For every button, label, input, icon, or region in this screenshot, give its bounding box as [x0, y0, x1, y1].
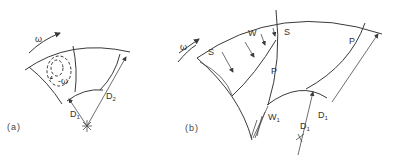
pressure-right-label: P	[349, 36, 355, 46]
caption-a: (a)	[7, 122, 21, 132]
wake-arrow-3	[261, 34, 265, 45]
rotation-center-a	[82, 120, 92, 132]
d1-label-b: D1	[300, 121, 311, 132]
wake-label: W	[248, 28, 257, 38]
wake-arrow-1	[222, 52, 233, 72]
blade-right-b	[306, 23, 365, 89]
impeller-diagram: ω -ω D1 D2 (a) ω	[0, 0, 402, 161]
omega-label-b: ω	[180, 42, 187, 52]
suction-left-label: S	[208, 47, 214, 57]
outer-shroud-arc-a	[25, 48, 130, 70]
inlet-velocity-vectors	[251, 106, 268, 138]
rotation-arrow-a	[29, 33, 60, 53]
pressure-mid-label: P	[271, 66, 277, 76]
blade-mid-a	[73, 46, 76, 92]
d1-outer-label-b: D1	[318, 110, 329, 121]
relative-eddy-label: -ω	[58, 76, 68, 86]
wake-arrow-4	[273, 28, 275, 36]
figure-b: ω S W S P P W1	[178, 10, 382, 155]
relative-eddy-inner	[51, 60, 63, 76]
omega-label-a: ω	[35, 34, 42, 44]
blade-left-b	[197, 58, 252, 140]
inner-hub-arc-a	[67, 90, 103, 101]
wake-boundary-b	[232, 40, 276, 96]
inner-hub-arc-b	[267, 90, 327, 105]
eddy-arrowhead	[50, 76, 53, 79]
caption-b: (b)	[185, 123, 199, 133]
rotation-center-b	[296, 134, 304, 142]
figure-a: ω -ω D1 D2 (a)	[7, 33, 130, 132]
wake-arrow-2	[245, 42, 254, 57]
d2-label-a: D2	[106, 91, 117, 102]
inlet-velocity-label: W1	[268, 112, 281, 123]
d1-label-a: D1	[70, 109, 81, 120]
suction-right-label: S	[284, 27, 290, 37]
